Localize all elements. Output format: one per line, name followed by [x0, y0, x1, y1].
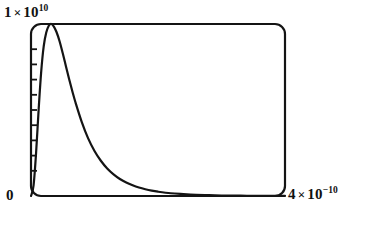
- distribution-curve: [31, 24, 285, 196]
- chart-figure: 1×1010 0 4×10−10: [0, 0, 369, 232]
- plot-area: [0, 0, 369, 232]
- plot-frame-border: [31, 24, 285, 196]
